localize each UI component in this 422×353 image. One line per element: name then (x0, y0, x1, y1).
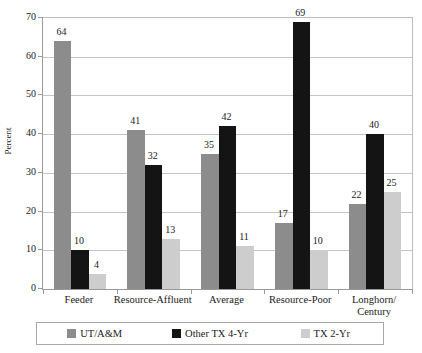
bar-tx-2-yr-3 (310, 250, 328, 289)
bar-value-label: 35 (195, 140, 223, 150)
bar-value-label: 11 (230, 232, 258, 242)
bar-value-label: 41 (121, 116, 149, 126)
y-axis-tick-label: 40 (8, 128, 36, 138)
bar-tx-2-yr-0 (89, 274, 107, 289)
y-axis-tick-label: 70 (8, 12, 36, 22)
chart-legend: UT/A&MOther TX 4-YrTX 2-Yr (36, 322, 384, 345)
y-axis-tick-label: 60 (8, 51, 36, 61)
y-axis-tick-mark (38, 172, 43, 173)
bar-other-tx-4-yr-4 (366, 134, 384, 289)
gridline (43, 95, 412, 96)
legend-item-label: TX 2-Yr (314, 328, 350, 339)
bar-tx-2-yr-4 (384, 192, 402, 289)
x-axis-category-label-line: Century (327, 306, 421, 318)
legend-item-label: Other TX 4-Yr (185, 328, 248, 339)
y-axis-tick-mark (38, 56, 43, 57)
bar-chart: Percent UT/A&MOther TX 4-YrTX 2-Yr 01020… (0, 0, 422, 353)
legend-item-label: UT/A&M (80, 328, 122, 339)
bar-value-label: 42 (213, 112, 241, 122)
plot-area (42, 17, 413, 290)
x-axis-category-label: Longhorn/Century (327, 294, 421, 317)
bar-value-label: 40 (360, 120, 388, 130)
legend-item-tx-2-yr[interactable]: TX 2-Yr (268, 328, 383, 339)
bar-ut-a-m-2 (201, 154, 219, 290)
bar-other-tx-4-yr-2 (219, 126, 237, 289)
y-axis-title: Percent (3, 111, 13, 171)
legend-swatch-other-tx-4yr-icon (172, 329, 181, 338)
y-axis-tick-mark (38, 249, 43, 250)
chart-title-strip (0, 0, 422, 11)
bar-value-label: 25 (378, 178, 406, 188)
x-axis-category-label-line: Longhorn/ (327, 294, 421, 306)
bar-ut-a-m-3 (275, 223, 293, 289)
bar-ut-a-m-4 (349, 204, 367, 289)
y-axis-tick-label: 50 (8, 89, 36, 99)
bar-other-tx-4-yr-3 (293, 22, 311, 289)
bar-value-label: 69 (286, 8, 314, 18)
legend-items: UT/A&MOther TX 4-YrTX 2-Yr (37, 323, 383, 344)
legend-swatch-tx-2yr-icon (301, 329, 310, 338)
y-axis-tick-label: 20 (8, 206, 36, 216)
bar-value-label: 64 (47, 27, 75, 37)
legend-item-other-tx-4-yr[interactable]: Other TX 4-Yr (152, 328, 267, 339)
y-axis-tick-mark (38, 211, 43, 212)
y-axis-tick-mark (38, 133, 43, 134)
bar-value-label: 10 (65, 236, 93, 246)
bar-tx-2-yr-2 (236, 246, 254, 289)
bar-tx-2-yr-1 (162, 239, 180, 289)
bar-ut-a-m-0 (54, 41, 72, 289)
bar-other-tx-4-yr-0 (71, 250, 89, 289)
y-axis-tick-label: 30 (8, 167, 36, 177)
legend-item-ut-a-m[interactable]: UT/A&M (37, 328, 152, 339)
y-axis-tick-label: 10 (8, 244, 36, 254)
bar-value-label: 32 (139, 151, 167, 161)
y-axis-tick-mark (38, 288, 43, 289)
y-axis-tick-mark (38, 94, 43, 95)
bar-value-label: 22 (343, 190, 371, 200)
bar-value-label: 4 (82, 260, 110, 270)
bar-value-label: 17 (269, 209, 297, 219)
legend-swatch-ut-am-icon (67, 329, 76, 338)
y-axis-tick-mark (38, 17, 43, 18)
bar-value-label: 10 (304, 236, 332, 246)
bar-value-label: 13 (156, 225, 184, 235)
gridline (43, 57, 412, 58)
y-axis-tick-label: 0 (8, 283, 36, 293)
